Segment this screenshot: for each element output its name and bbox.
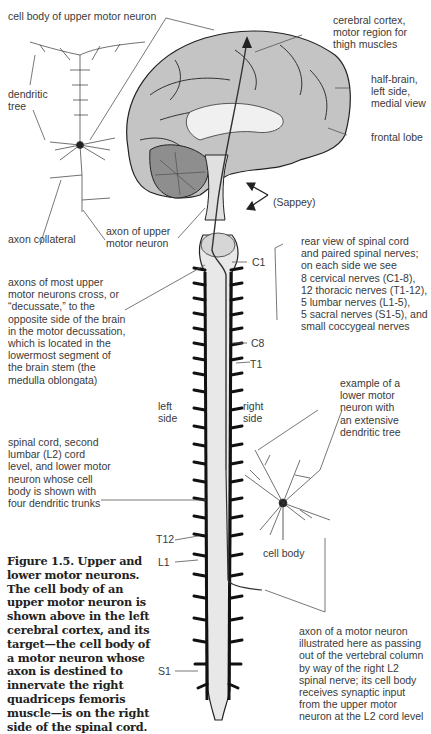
level-t12: T12 — [156, 533, 174, 545]
label-half-brain: half-brain, left side, medial view — [371, 73, 426, 110]
label-cell-body-upper-motor-neuron: cell body of upper motor neuron — [8, 10, 156, 22]
brain-half-medial-view — [127, 31, 351, 220]
level-s1: S1 — [158, 665, 171, 677]
label-axon-upper-motor-neuron: axon of upper motor neuron — [106, 225, 170, 249]
label-rear-view-spinal-cord: rear view of spinal cord and paired spin… — [301, 235, 428, 333]
label-frontal-lobe: frontal lobe — [371, 131, 423, 143]
label-spinal-cord-l2: spinal cord, second lumbar (L2) cord lev… — [8, 436, 111, 509]
figure-caption: Figure 1.5. Upper and lower motor neuron… — [7, 555, 137, 734]
label-decussation: axons of most upper motor neurons cross,… — [8, 276, 125, 386]
level-t1: T1 — [250, 358, 262, 370]
level-c8: C8 — [251, 337, 264, 349]
label-cerebral-cortex: cerebral cortex, motor region for thigh … — [333, 14, 407, 51]
level-c1: C1 — [252, 256, 265, 268]
lower-motor-neuron-drawing — [245, 450, 330, 540]
label-dendritic-tree: dendritic tree — [8, 88, 48, 112]
label-axon-collateral: axon collateral — [8, 233, 76, 245]
label-example-lower-motor-neuron: example of a lower motor neuron with an … — [340, 377, 401, 438]
spinal-cord — [194, 233, 242, 720]
label-axon-motor-neuron: axon of a motor neuron illustrated here … — [299, 625, 423, 723]
level-l1: L1 — [158, 556, 170, 568]
label-right-side: right side — [243, 400, 263, 424]
label-sappey: (Sappey) — [273, 196, 316, 208]
sappey-arrows — [247, 183, 268, 210]
label-left-side: left side — [158, 400, 177, 424]
label-cell-body: cell body — [263, 547, 304, 559]
